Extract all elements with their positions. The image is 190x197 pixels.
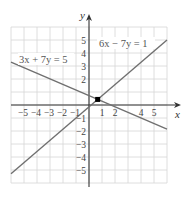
y-tick-label: 3 (81, 62, 86, 72)
x-tick-label: 5 (152, 108, 157, 118)
y-tick-label: 2 (81, 75, 86, 85)
y-tick-label: −3 (76, 140, 86, 150)
x-tick-label: −2 (57, 108, 67, 118)
y-axis-label: y (79, 9, 85, 21)
equation-label-2: 6x − 7y = 1 (99, 38, 148, 49)
y-tick-label: −2 (76, 127, 86, 137)
y-tick-label: −1 (76, 114, 86, 124)
x-tick-label: −4 (31, 108, 41, 118)
x-tick-label: 4 (139, 108, 144, 118)
y-tick-label: 4 (81, 49, 86, 59)
y-tick-label: −4 (76, 153, 86, 163)
y-tick-label: 5 (81, 36, 86, 46)
y-tick-label: −5 (76, 166, 86, 176)
x-tick-label: −5 (18, 108, 28, 118)
intersection-point (95, 97, 100, 102)
x-tick-label: 2 (113, 108, 118, 118)
coordinate-plane: y x 3x + 7y = 5 6x − 7y = 1 −5−4−3−2−112… (0, 0, 190, 197)
x-tick-label: 1 (100, 108, 105, 118)
x-axis-label: x (174, 108, 180, 120)
x-tick-label: −3 (44, 108, 54, 118)
equation-label-1: 3x + 7y = 5 (19, 54, 68, 65)
